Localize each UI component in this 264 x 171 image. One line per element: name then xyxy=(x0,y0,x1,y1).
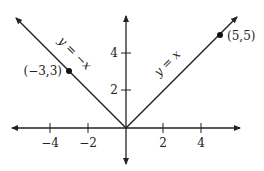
x-tick-label: −4 xyxy=(41,136,59,150)
y-tick-label: 2 xyxy=(110,83,118,97)
y-tick-label: 4 xyxy=(110,46,118,60)
point-5-5 xyxy=(217,32,223,38)
x-tick-label: 4 xyxy=(197,136,205,150)
point-label: (−3,3) xyxy=(23,64,62,78)
x-tick-label: −2 xyxy=(79,136,97,150)
x-tick-label: 2 xyxy=(159,136,167,150)
graph-abs-value: −4 −2 2 4 2 4 (−3,3) (5,5) y = −x y = x xyxy=(0,0,264,171)
point-label: (5,5) xyxy=(227,29,255,43)
point-neg3-3 xyxy=(66,68,72,74)
